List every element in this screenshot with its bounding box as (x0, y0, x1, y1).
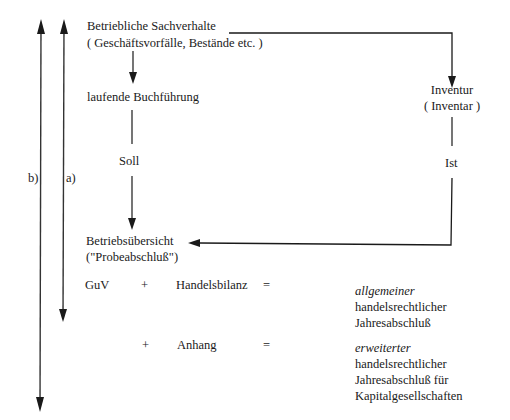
node-sachverhalte-subtitle: ( Geschäftsvorfälle, Bestände etc. ) (87, 36, 263, 51)
node-betriebsuebersicht-title: Betriebsübersicht (86, 234, 173, 249)
eq2-result-line3: Jahresabschluß für (355, 373, 448, 388)
eq1-result-line2: handelsrechtlicher (355, 300, 447, 315)
eq2-result-line2: handelsrechtlicher (355, 357, 447, 372)
arrow-down-icon (129, 72, 137, 84)
eq2-term-anhang: Anhang (177, 338, 217, 353)
eq1-equals: = (263, 278, 270, 293)
arrow-down-icon (128, 218, 136, 230)
bracket-b-arrow (36, 19, 45, 412)
arrow-sachverhalte-to-inventur (229, 33, 456, 88)
node-inventur-title: Inventur (412, 83, 492, 98)
node-inventur-subtitle: ( Inventar ) (412, 99, 492, 114)
node-buchfuehrung: laufende Buchführung (87, 90, 199, 105)
bracket-b-line (40, 24, 41, 406)
label-bracket-a: a) (66, 171, 76, 186)
arrow-ist-to-betriebsuebersicht (188, 178, 452, 247)
arrow-down-icon (36, 397, 44, 412)
eq1-plus: + (141, 278, 148, 293)
arrow-soll-to-betriebsuebersicht (128, 176, 136, 230)
label-ist: Ist (445, 156, 458, 171)
eq1-term-handelsbilanz: Handelsbilanz (176, 278, 248, 293)
eq2-equals: = (263, 338, 270, 353)
node-sachverhalte-title: Betriebliche Sachverhalte (87, 19, 216, 34)
eq1-result-line3: Jahresabschluß (355, 316, 431, 331)
arrow-up-icon (37, 19, 45, 34)
eq2-result-line4: Kapitalgesellschaften (355, 389, 463, 404)
eq1-term-guv: GuV (85, 278, 109, 293)
eq2-plus: + (142, 338, 149, 353)
node-betriebsuebersicht-subtitle: ("Probeabschluß") (86, 250, 178, 265)
arrow-up-icon (60, 19, 68, 34)
label-soll: Soll (119, 154, 139, 169)
arrow-left-icon (188, 239, 200, 247)
bracket-a-line (63, 24, 64, 318)
arrow-down-icon (59, 309, 67, 322)
label-bracket-b: b) (28, 171, 38, 186)
arrow-sachverhalte-to-buchfuehrung (129, 51, 137, 84)
eq2-result-italic: erweiterter (355, 341, 411, 356)
eq1-result-italic: allgemeiner (355, 284, 415, 299)
